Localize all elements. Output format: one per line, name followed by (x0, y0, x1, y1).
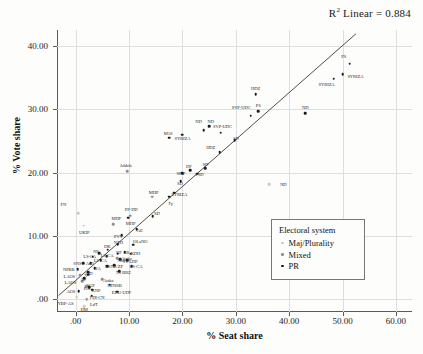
y-tick-label: .00 (37, 294, 48, 304)
data-point-label: PP-DD (125, 206, 138, 211)
data-point-label: KDH (131, 251, 141, 256)
data-point-label: Jobbik (120, 162, 132, 167)
data-point-label: NF (116, 249, 122, 254)
data-point (219, 151, 222, 154)
legend-item-maj[interactable]: Maj/Plurality (279, 238, 357, 248)
y-tick-label: 10.00 (28, 231, 48, 241)
x-tick-label: 20.00 (172, 316, 192, 326)
data-point-label: V (85, 272, 88, 277)
data-point-label: SB (124, 249, 129, 254)
y-tick-label: 20.00 (28, 168, 48, 178)
data-point (189, 169, 192, 172)
legend-item-label: PR (289, 261, 299, 271)
data-point-label: LAOS (63, 273, 75, 278)
data-point-label: ND (280, 181, 286, 186)
y-tick-label: 40.00 (28, 41, 48, 51)
data-point (132, 244, 135, 247)
data-point-label: NS (105, 264, 111, 269)
data-point-label: MHP (126, 221, 136, 226)
data-point-label: NA (94, 266, 100, 271)
data-point-label: MHP (111, 216, 121, 221)
data-point-label: YBP-AS (58, 301, 74, 306)
data-point (254, 93, 257, 96)
data-point-label: NZ/ZP (111, 263, 123, 268)
legend-title: Electoral system (279, 225, 357, 235)
data-point-label: KNP (92, 288, 101, 293)
data-point (204, 167, 207, 170)
legend-marker-icon (281, 253, 284, 256)
data-point-label: NPBB (63, 266, 75, 271)
y-tick-mark (53, 299, 57, 300)
data-point-label: ND (302, 105, 308, 110)
data-point-label: ND (195, 119, 201, 124)
x-axis-title: % Seat share (57, 330, 412, 341)
data-point (78, 290, 81, 293)
data-point-label: PVV (114, 233, 123, 238)
data-point-label: AE (137, 228, 143, 233)
data-point (168, 136, 171, 139)
data-point-label: HDSSB (107, 283, 121, 288)
data-point-label: M5S (164, 130, 173, 135)
data-point (208, 125, 211, 128)
data-point-label: LAOS (65, 280, 77, 285)
scatter-plot-figure: R2 Linear = 0.884 FNUKIPNDYBP-ASHMJobbik… (0, 0, 423, 354)
data-point (77, 212, 80, 215)
x-tick-label: 50.00 (332, 316, 352, 326)
data-point (332, 77, 335, 80)
data-point-label: HDZ (251, 85, 260, 90)
data-point-label: SD (203, 161, 209, 166)
legend-marker-icon (281, 242, 284, 245)
data-point (249, 114, 252, 117)
legend-item-pr[interactable]: PR (279, 261, 357, 271)
data-point-label: SD (233, 136, 239, 141)
data-point-label: SP (81, 277, 86, 282)
y-tick-label: 30.00 (28, 104, 48, 114)
legend: Electoral system Maj/PluralityMixedPR (271, 219, 365, 280)
y-tick-mark (53, 236, 57, 237)
data-point-label: SVP-UDC (213, 123, 232, 128)
legend-marker-icon (281, 265, 284, 268)
y-tick-mark (53, 173, 57, 174)
data-point (82, 225, 85, 228)
data-point-label: LdT (90, 301, 98, 306)
data-point-label: FDI-CN (90, 294, 105, 299)
data-point-label: OLaNO (133, 239, 147, 244)
y-axis-title: % Vote share (11, 66, 22, 226)
legend-item-mixed[interactable]: Mixed (279, 250, 357, 260)
data-point-label: FN (61, 201, 67, 206)
data-point-label: EDU-UDF (112, 290, 131, 295)
data-point-label: NZH (114, 239, 123, 244)
data-point (151, 215, 154, 218)
data-point-label: LS-CA (94, 258, 107, 263)
data-point-label: LS-CA (130, 264, 143, 269)
data-point-label: AfD (86, 261, 94, 266)
y-tick-mark (53, 109, 57, 110)
data-point-label: HDZ (206, 145, 215, 150)
legend-item-label: Maj/Plurality (289, 238, 334, 248)
data-point-label: SYRIZA (171, 192, 187, 197)
data-point-label: PSD (195, 172, 203, 177)
data-point (348, 62, 351, 65)
x-tick-label: 30.00 (226, 316, 246, 326)
data-point-label: MHP (149, 190, 159, 195)
data-point-label: AOS (66, 289, 75, 294)
data-point (257, 110, 260, 113)
data-point (151, 195, 154, 198)
data-point-label: SYRIZA (347, 73, 363, 78)
data-point-label: TT-LDP (123, 258, 138, 263)
data-point-label: PiS (84, 285, 90, 290)
data-point (341, 73, 344, 76)
data-point-label: TS BBZ (116, 270, 131, 275)
data-point-label: SYRIZA (174, 135, 190, 140)
x-tick-label: 40.00 (279, 316, 299, 326)
data-point (126, 170, 129, 173)
data-point-label: DF (186, 163, 192, 168)
data-point-label: PS (341, 53, 346, 58)
data-point (77, 268, 80, 271)
data-point-label: SNS (73, 261, 81, 266)
y-tick-mark (53, 46, 57, 47)
data-point (112, 223, 115, 226)
data-point (127, 216, 130, 219)
data-point (203, 129, 206, 132)
legend-entries: Maj/PluralityMixedPR (279, 238, 357, 271)
